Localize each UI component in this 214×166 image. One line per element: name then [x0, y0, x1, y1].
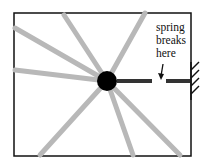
spring-line [40, 81, 107, 155]
spring-line [107, 13, 145, 81]
annotation-line-2: breaks [156, 34, 186, 46]
ball-mass [97, 71, 117, 91]
wall-hatch-icon [191, 62, 199, 100]
annotation-line-1: spring [156, 21, 185, 33]
annotation-line-3: here [156, 47, 176, 59]
arrow-icon [158, 64, 164, 80]
